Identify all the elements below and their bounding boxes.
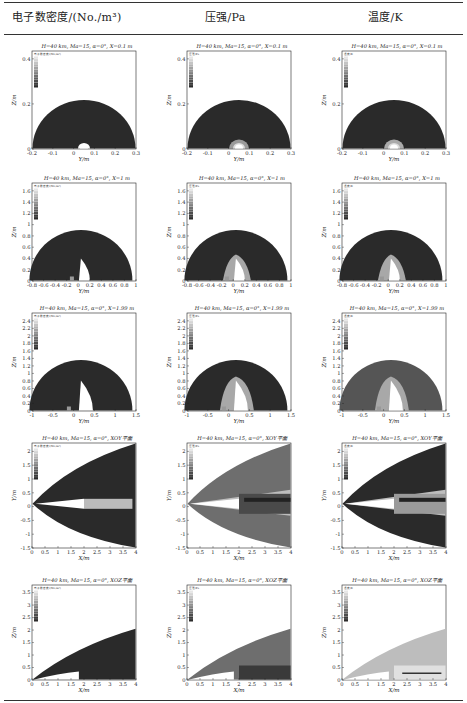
svg-text:压强/Pa: 压强/Pa: [189, 52, 200, 56]
svg-text:3.5: 3.5: [119, 549, 127, 555]
svg-text:1: 1: [269, 412, 272, 418]
svg-text:-0.5: -0.5: [203, 412, 213, 418]
svg-text:1.6: 1.6: [22, 348, 30, 354]
svg-text:0.5: 0.5: [332, 664, 340, 670]
svg-text:电子数密度/(No./m³): 电子数密度/(No./m³): [34, 52, 61, 56]
svg-text:Z/m: Z/m: [321, 226, 327, 238]
svg-text:0: 0: [382, 150, 385, 156]
svg-text:0: 0: [27, 503, 30, 509]
svg-text:2.2: 2.2: [332, 325, 340, 331]
svg-text:1: 1: [444, 282, 447, 288]
svg-text:0.2: 0.2: [177, 400, 185, 406]
svg-text:1.5: 1.5: [22, 639, 30, 645]
svg-text:X/m: X/m: [232, 687, 244, 693]
svg-text:Y/m: Y/m: [321, 490, 327, 501]
svg-text:Z/m: Z/m: [11, 627, 17, 639]
svg-text:3: 3: [108, 681, 111, 687]
svg-text:0.6: 0.6: [22, 244, 30, 250]
svg-text:电子数密度/(No./m³): 电子数密度/(No./m³): [34, 314, 61, 318]
svg-text:0.5: 0.5: [332, 490, 340, 496]
contour-plot: H=40 km, Ma=15, α=0°, X=0.1 m温度/K-0.2-0.…: [312, 40, 467, 170]
svg-text:4: 4: [134, 549, 138, 555]
svg-text:-1: -1: [180, 531, 185, 537]
svg-text:1: 1: [134, 282, 137, 288]
svg-text:-1: -1: [335, 531, 340, 537]
svg-text:1.4: 1.4: [332, 355, 341, 361]
contour-plot: H=40 km, Ma=15, α=0°, X=0.1 m电子数密度/(No./…: [2, 40, 157, 170]
svg-text:-1.5: -1.5: [330, 545, 340, 551]
plot-panel: H=40 km, Ma=15, α=0°, X=1 m电子数密度/(No./m³…: [2, 172, 157, 302]
svg-text:2: 2: [337, 448, 340, 454]
svg-text:0.8: 0.8: [120, 282, 128, 288]
svg-text:0.2: 0.2: [332, 400, 340, 406]
contour-plot: H=40 km, Ma=15, α=0°, X=1.99 m温度/K-1-0.5…: [312, 302, 467, 432]
header-rule: [4, 34, 463, 35]
plot-panel: H=40 km, Ma=15, α=0°, X=1 m温度/K-0.8-0.6-…: [312, 172, 467, 302]
svg-text:2: 2: [337, 627, 340, 633]
svg-text:1.4: 1.4: [177, 199, 186, 205]
contour-plot: H=40 km, Ma=15, α=0°, X=1 m压强/Pa-0.8-0.6…: [157, 172, 312, 302]
svg-text:压强/Pa: 压强/Pa: [189, 184, 200, 188]
svg-text:1.2: 1.2: [177, 210, 185, 216]
svg-text:Z/m: Z/m: [11, 226, 17, 238]
svg-text:-0.5: -0.5: [358, 412, 368, 418]
svg-text:1.2: 1.2: [22, 363, 30, 369]
svg-text:-0.4: -0.4: [360, 282, 371, 288]
svg-text:-0.2: -0.2: [62, 282, 72, 288]
svg-text:-0.5: -0.5: [20, 517, 30, 523]
svg-text:0.5: 0.5: [196, 549, 204, 555]
svg-text:-0.6: -0.6: [349, 282, 359, 288]
svg-text:0.2: 0.2: [332, 101, 340, 107]
svg-text:1: 1: [366, 549, 369, 555]
contour-plot: H=40 km, Ma=15, α=0°, X=1 m电子数密度/(No./m³…: [2, 172, 157, 302]
svg-text:H=40 km, Ma=15, α=0°, XOZ平面: H=40 km, Ma=15, α=0°, XOZ平面: [196, 577, 288, 583]
plot-panel: H=40 km, Ma=15, α=0°, XOY平面压强/Pa00.511.5…: [157, 432, 312, 574]
svg-text:0.5: 0.5: [351, 681, 359, 687]
svg-text:0: 0: [340, 681, 343, 687]
svg-text:Z/m: Z/m: [321, 94, 327, 106]
svg-text:4: 4: [289, 681, 293, 687]
svg-text:X/m: X/m: [232, 555, 244, 561]
svg-text:Z/m: Z/m: [166, 226, 172, 238]
svg-text:0: 0: [340, 549, 343, 555]
svg-text:0.5: 0.5: [351, 549, 359, 555]
svg-text:1.5: 1.5: [332, 639, 340, 645]
svg-text:0.2: 0.2: [177, 101, 185, 107]
svg-text:1.6: 1.6: [332, 188, 340, 194]
svg-text:0.4: 0.4: [97, 282, 106, 288]
svg-text:0: 0: [182, 408, 185, 414]
svg-text:0: 0: [227, 412, 230, 418]
svg-text:1.4: 1.4: [177, 355, 186, 361]
svg-text:H=40 km, Ma=15, α=0°, XOY平面: H=40 km, Ma=15, α=0°, XOY平面: [41, 435, 132, 441]
svg-text:H=40 km, Ma=15, α=0°, X=1 m: H=40 km, Ma=15, α=0°, X=1 m: [198, 175, 285, 181]
svg-text:Z/m: Z/m: [166, 627, 172, 639]
svg-text:1.5: 1.5: [377, 681, 385, 687]
svg-text:1: 1: [337, 476, 340, 482]
svg-text:1.2: 1.2: [332, 363, 340, 369]
contour-plot: H=40 km, Ma=15, α=0°, X=0.1 m压强/Pa-0.2-0…: [157, 40, 312, 170]
svg-text:1: 1: [424, 412, 427, 418]
svg-text:2.5: 2.5: [248, 681, 256, 687]
svg-text:-0.2: -0.2: [372, 282, 382, 288]
svg-text:3: 3: [263, 549, 266, 555]
svg-text:压强/Pa: 压强/Pa: [189, 444, 200, 448]
svg-text:温度/K: 温度/K: [344, 444, 353, 448]
svg-text:0.6: 0.6: [332, 385, 340, 391]
svg-text:1.8: 1.8: [177, 340, 185, 346]
svg-text:3.5: 3.5: [274, 681, 282, 687]
svg-text:Y/m: Y/m: [389, 418, 400, 424]
svg-text:-0.5: -0.5: [175, 517, 185, 523]
svg-text:1.5: 1.5: [132, 412, 140, 418]
contour-plot: H=40 km, Ma=15, α=0°, XOY平面电子数密度/(No./m³…: [2, 432, 157, 574]
svg-text:1: 1: [337, 652, 340, 658]
svg-text:1.2: 1.2: [177, 363, 185, 369]
top-rule: [4, 2, 463, 3]
svg-text:Z/m: Z/m: [321, 627, 327, 639]
contour-plot: H=40 km, Ma=15, α=0°, XOZ平面温度/K00.511.52…: [312, 574, 467, 700]
svg-text:0.8: 0.8: [177, 378, 185, 384]
svg-text:0.8: 0.8: [430, 282, 438, 288]
header-pressure: 压强/Pa: [205, 8, 246, 24]
svg-text:1.2: 1.2: [22, 210, 30, 216]
svg-text:0.4: 0.4: [252, 282, 261, 288]
svg-text:-0.6: -0.6: [194, 282, 204, 288]
